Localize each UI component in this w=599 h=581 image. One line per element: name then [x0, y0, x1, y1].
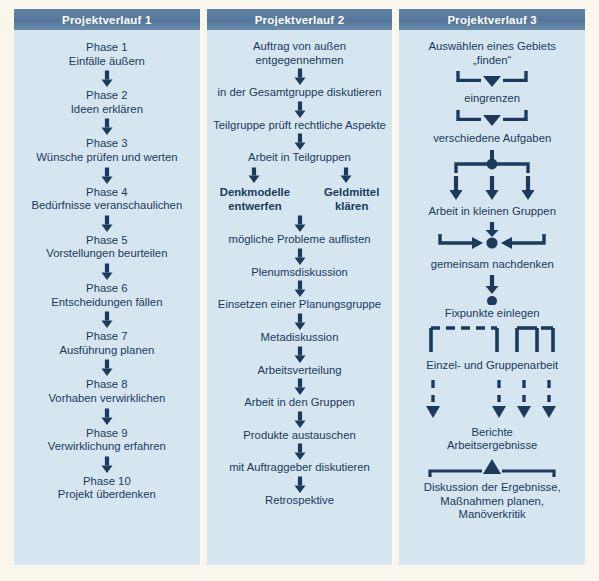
- arrow-down-icon: [100, 167, 114, 184]
- column-3-flow: Auswählen eines Gebiets „finden“eingrenz…: [399, 30, 585, 565]
- arrow-down-icon: [100, 359, 114, 376]
- column-projektverlauf-1: Projektverlauf 1 Phase 1 Einfälle äußern…: [14, 9, 200, 565]
- flow-node: Phase 4 Bedürfnisse veranschaulichen: [27, 186, 186, 213]
- flow-node: Plenumsdiskussion: [247, 266, 352, 280]
- arrow-down-icon: [293, 378, 307, 395]
- arrow-down-icon: [100, 215, 114, 232]
- branch-row: Denkmodelle entwerfenGeldmittel klären: [207, 186, 393, 213]
- flow-node: gemeinsam nachdenken: [427, 258, 558, 272]
- arrow-down-icon: [100, 70, 114, 87]
- flow-node: Einzel- und Gruppenarbeit: [422, 359, 562, 373]
- flow-node: Berichte Arbeitsergebnisse: [443, 426, 541, 453]
- flow-node: Geldmittel klären: [320, 186, 383, 213]
- arrow-to-dot-icon: [484, 275, 500, 305]
- flow-node: mit Auftraggeber diskutieren: [225, 461, 374, 475]
- panel-container: Projektverlauf 1 Phase 1 Einfälle äußern…: [14, 9, 585, 565]
- arrow-down-icon: [293, 280, 307, 297]
- arrow-down-icon: [100, 263, 114, 280]
- flow-node: Phase 8 Vorhaben verwirklichen: [44, 378, 169, 405]
- arrow-down-icon: [100, 118, 114, 135]
- flow-node: Phase 10 Projekt überdenken: [54, 475, 160, 502]
- arrow-down-icon: [247, 167, 261, 183]
- branch-column: Denkmodelle entwerfen: [216, 186, 294, 213]
- column-projektverlauf-3: Projektverlauf 3 Auswählen eines Gebiets…: [399, 9, 585, 565]
- flow-node: Arbeit in den Gruppen: [240, 396, 359, 410]
- split-three-ways-icon: [436, 150, 548, 202]
- flow-node: Phase 5 Vorstellungen beurteilen: [42, 234, 171, 261]
- flow-node: verschiedene Aufgaben: [429, 132, 555, 146]
- dashed-arrows-down-icon: [421, 378, 563, 420]
- arrow-down-icon: [100, 456, 114, 473]
- flow-node: Phase 9 Verwirklichung erfahren: [44, 427, 170, 454]
- arrow-down-icon: [339, 167, 353, 183]
- flow-node: Auswählen eines Gebiets „finden“: [424, 40, 559, 67]
- arrow-down-icon: [100, 408, 114, 425]
- flow-node: Phase 2 Ideen erklären: [67, 89, 147, 116]
- arrow-down-icon: [293, 313, 307, 330]
- flow-node: Retrospektive: [261, 494, 338, 508]
- flow-node: Arbeit in Teilgruppen: [244, 151, 355, 165]
- flow-node: Auftrag von außen entgegennehmen: [207, 40, 393, 67]
- arrow-down-icon: [293, 443, 307, 460]
- flow-node: Phase 6 Entscheidungen fällen: [47, 282, 166, 309]
- flow-node: eingrenzen: [460, 92, 524, 106]
- flow-node: Teilgruppe prüft rechtliche Aspekte: [209, 119, 390, 133]
- arrow-down-icon: [100, 311, 114, 328]
- flow-node: Metadiskussion: [257, 331, 343, 345]
- column-1-flow: Phase 1 Einfälle äußernPhase 2 Ideen erk…: [14, 30, 200, 565]
- arrow-down-icon: [293, 476, 307, 493]
- branch-column: Geldmittel klären: [320, 186, 383, 213]
- flow-node: Einsetzen einer Planungsgruppe: [214, 298, 385, 312]
- flow-node: Phase 1 Einfälle äußern: [65, 41, 149, 68]
- flow-node: mögliche Probleme auflisten: [225, 233, 375, 247]
- arrow-down-icon: [293, 68, 307, 85]
- column-3-header: Projektverlauf 3: [399, 9, 585, 30]
- arrow-down-icon: [293, 215, 307, 232]
- flow-node: in der Gesamtgruppe diskutieren: [214, 86, 386, 100]
- dashed-brackets-icon: [421, 325, 563, 355]
- flow-node: Phase 7 Ausführung planen: [55, 330, 158, 357]
- merge-up-triangle-icon: [424, 457, 560, 477]
- column-projektverlauf-2: Projektverlauf 2 Auftrag von außen entge…: [207, 9, 393, 565]
- arrow-down-icon: [293, 346, 307, 363]
- column-1-header: Projektverlauf 1: [14, 9, 200, 30]
- funnel-merge-down-icon: [448, 108, 536, 128]
- flow-node: Denkmodelle entwerfen: [216, 186, 294, 213]
- arrow-down-icon: [293, 101, 307, 118]
- flow-node: Fixpunkte einlegen: [441, 307, 544, 321]
- flow-node: Arbeit in kleinen Gruppen: [424, 205, 559, 219]
- flow-node: Diskussion der Ergebnisse, Maßnahmen pla…: [420, 481, 565, 522]
- flow-node: Produkte austauschen: [239, 429, 359, 443]
- flow-node: Phase 3 Wünsche prüfen und werten: [32, 137, 181, 164]
- branch-arrow-row: [207, 167, 393, 183]
- projektverlauf-figure: Projektverlauf 1 Phase 1 Einfälle äußern…: [0, 0, 599, 581]
- column-2-flow: Auftrag von außen entgegennehmenin der G…: [207, 30, 393, 565]
- column-2-header: Projektverlauf 2: [207, 9, 393, 30]
- merge-three-ways-icon: [426, 222, 558, 256]
- funnel-merge-down-icon: [448, 69, 536, 89]
- arrow-down-icon: [293, 411, 307, 428]
- flow-node: Arbeitsverteilung: [253, 364, 345, 378]
- arrow-down-icon: [293, 133, 307, 150]
- arrow-down-icon: [293, 248, 307, 265]
